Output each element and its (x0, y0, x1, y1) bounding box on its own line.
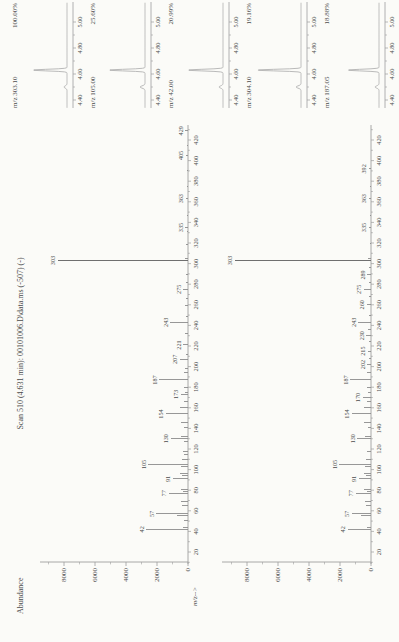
svg-text:243: 243 (162, 318, 169, 327)
svg-text:360: 360 (375, 197, 382, 207)
svg-text:260: 260 (375, 300, 382, 310)
svg-text:187: 187 (151, 375, 158, 384)
svg-text:340: 340 (375, 218, 382, 228)
svg-text:77: 77 (347, 490, 354, 496)
svg-text:154: 154 (343, 409, 350, 418)
svg-text:405: 405 (177, 151, 184, 160)
svg-text:120: 120 (375, 444, 382, 454)
eic-percent: 19.16% (245, 3, 253, 25)
svg-text:8000: 8000 (60, 568, 68, 583)
svg-text:77: 77 (160, 490, 167, 496)
svg-text:340: 340 (192, 218, 199, 228)
svg-text:170: 170 (354, 393, 361, 402)
svg-text:320: 320 (192, 238, 199, 248)
svg-text:420: 420 (375, 135, 382, 145)
svg-text:335: 335 (177, 223, 184, 232)
svg-text:60: 60 (192, 508, 199, 514)
svg-text:289: 289 (359, 270, 366, 279)
svg-text:202: 202 (359, 360, 366, 369)
svg-text:180: 180 (192, 382, 199, 392)
svg-text:40: 40 (375, 528, 382, 534)
svg-text:363: 363 (360, 194, 367, 203)
svg-text:220: 220 (375, 341, 382, 351)
eic-panel-304: 4.404.604.805.00 m/z 304.10 19.16% (234, 0, 312, 110)
svg-text:275: 275 (355, 285, 362, 294)
svg-text:320: 320 (375, 238, 382, 248)
axes (40, 125, 191, 566)
eic-percent: 20.99% (167, 3, 175, 25)
svg-text:80: 80 (192, 487, 199, 493)
gcms-report-page: Abundance Scan 510 (4.631 min): 00101006… (0, 0, 399, 642)
svg-text:420: 420 (192, 135, 199, 145)
svg-text:140: 140 (375, 424, 382, 434)
svg-text:187: 187 (342, 375, 349, 384)
svg-text:4.40: 4.40 (388, 94, 395, 105)
sample-spectrum-plot: 2040608010012014016018020022024026028030… (0, 110, 199, 642)
svg-text:42: 42 (138, 526, 145, 532)
svg-text:300: 300 (192, 259, 199, 269)
svg-text:100: 100 (192, 465, 199, 475)
eic-mz-label: m/z 303.10 (11, 77, 19, 109)
svg-text:335: 335 (360, 223, 367, 232)
eic-mz-label: m/z 187.05 (323, 77, 331, 109)
svg-text:240: 240 (192, 321, 199, 331)
svg-text:400: 400 (375, 156, 382, 166)
library-spectrum-panel: Abundance #219: Carfentanil 204060801001… (199, 110, 399, 642)
eic-label-row: m/z 304.10 19.16% (245, 3, 253, 108)
svg-text:57: 57 (148, 511, 155, 517)
svg-text:200: 200 (192, 362, 199, 372)
svg-text:300: 300 (375, 259, 382, 269)
peak-labels: 4257779110513015417018720221523024326027… (226, 164, 367, 532)
svg-text:260: 260 (192, 300, 199, 310)
eic-panel-303: 4.404.604.805.00 m/z 303.10 100.00% (0, 0, 78, 110)
eic-trace-line (349, 3, 379, 108)
svg-text:260: 260 (358, 300, 365, 309)
svg-text:0: 0 (367, 568, 375, 572)
svg-text:173: 173 (172, 390, 179, 399)
eic-label-row: m/z 187.05 18.88% (323, 3, 331, 108)
eic-mz-label: m/z 42.00 (167, 80, 175, 108)
axes (222, 125, 374, 566)
svg-text:280: 280 (192, 279, 199, 289)
eic-trace-line (110, 3, 145, 108)
svg-text:200: 200 (375, 362, 382, 372)
svg-text:91: 91 (350, 476, 357, 482)
scanned-report-viewport: Abundance Scan 510 (4.631 min): 00101006… (0, 0, 399, 642)
svg-text:280: 280 (375, 279, 382, 289)
svg-text:20: 20 (375, 549, 382, 555)
svg-text:105: 105 (331, 460, 338, 469)
svg-text:100: 100 (375, 465, 382, 475)
svg-text:243: 243 (350, 318, 357, 327)
svg-text:2000: 2000 (336, 568, 344, 583)
eic-mz-label: m/z 304.10 (245, 77, 253, 109)
eic-panel-187: 4.404.604.805.00 m/z 187.05 18.88% (312, 0, 390, 110)
svg-text:105: 105 (140, 460, 147, 469)
svg-text:275: 275 (175, 285, 182, 294)
svg-text:360: 360 (192, 197, 199, 207)
svg-text:4000: 4000 (122, 568, 130, 583)
svg-text:4.80: 4.80 (388, 42, 395, 53)
svg-text:380: 380 (375, 176, 382, 186)
svg-text:5.00: 5.00 (388, 16, 395, 27)
svg-text:40: 40 (192, 528, 199, 534)
mz-axis-label: m/z--> (191, 587, 199, 606)
svg-text:20: 20 (192, 549, 199, 555)
svg-text:363: 363 (177, 194, 184, 203)
svg-text:2000: 2000 (153, 568, 161, 583)
svg-text:380: 380 (192, 176, 199, 186)
eic-label-row: m/z 303.10 100.00% (11, 3, 19, 108)
eic-axis: 4.404.604.805.00 (385, 2, 395, 108)
eic-percent: 18.88% (323, 3, 331, 25)
svg-text:220: 220 (192, 341, 199, 351)
svg-text:57: 57 (343, 511, 350, 517)
svg-text:207: 207 (171, 355, 178, 364)
svg-text:4000: 4000 (305, 568, 313, 583)
eic-percent: 25.60% (89, 3, 97, 25)
svg-text:215: 215 (359, 347, 366, 356)
eic-label-row: m/z 42.00 20.99% (167, 3, 175, 108)
eic-trace-line (34, 3, 67, 108)
svg-text:120: 120 (192, 444, 199, 454)
svg-text:303: 303 (226, 256, 233, 265)
eic-mz-label: m/z 105.00 (89, 77, 97, 109)
peak-labels: 4257779110513015417318720722124327530333… (49, 126, 184, 532)
